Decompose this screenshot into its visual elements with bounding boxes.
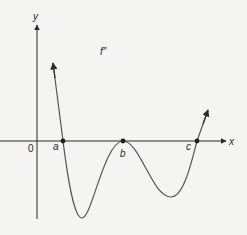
point-a-label: a <box>53 141 59 152</box>
point-c-label: c <box>186 141 191 152</box>
function-graph: y x 0 f″ a b c <box>0 0 247 235</box>
x-axis-label: x <box>228 136 235 147</box>
curve-left-arrow-icon <box>53 63 55 78</box>
point-a-marker <box>61 139 66 144</box>
origin-label: 0 <box>28 143 34 154</box>
function-label: f″ <box>100 46 107 57</box>
curve-right-arrow-icon <box>203 110 208 124</box>
y-axis-label: y <box>32 11 39 22</box>
point-b-marker <box>121 139 126 144</box>
point-c-marker <box>195 139 200 144</box>
point-b-label: b <box>120 148 126 159</box>
